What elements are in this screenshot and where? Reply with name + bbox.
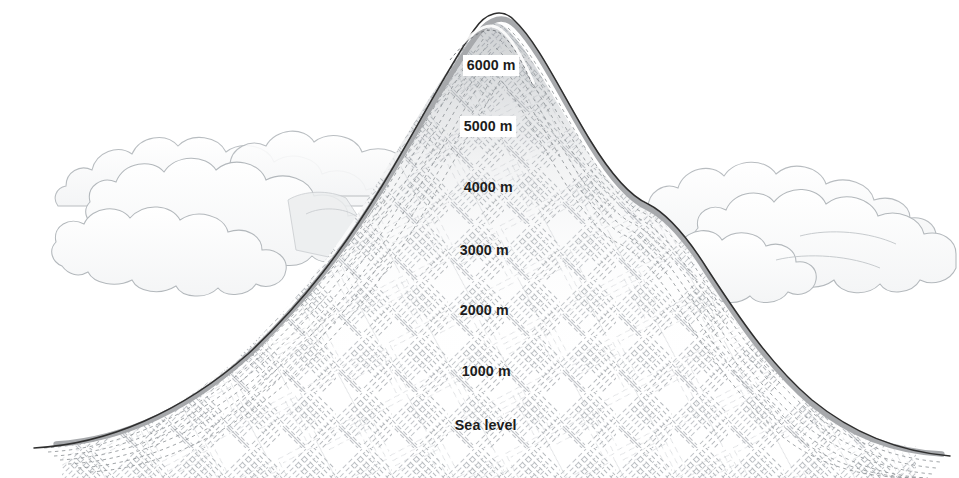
altitude-label-3000m: 3000 m (457, 240, 511, 261)
altitude-label-6000m: 6000 m (463, 55, 519, 76)
altitude-label-5000m: 5000 m (460, 116, 516, 137)
altitude-label-1000m: 1000 m (459, 361, 513, 382)
mountain-diagram: 6000 m 5000 m 4000 m 3000 m 2000 m 1000 … (0, 0, 959, 478)
altitude-label-sea-level: Sea level (452, 415, 519, 436)
altitude-label-4000m: 4000 m (461, 177, 515, 198)
altitude-label-2000m: 2000 m (457, 300, 511, 321)
